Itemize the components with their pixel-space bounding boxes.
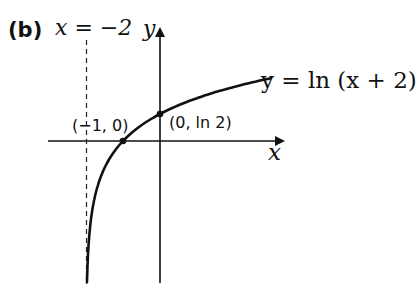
y-intercept-label: (0, ln 2) [169, 113, 232, 132]
x-axis-label: x [268, 139, 281, 165]
part-label: (b) [8, 18, 42, 42]
point-y-intercept [157, 111, 164, 118]
x-intercept-label: (−1, 0) [72, 116, 128, 135]
point-x-intercept [120, 138, 127, 145]
log-curve [87, 78, 271, 282]
asymptote-label: x = −2 [55, 15, 132, 40]
y-axis-label: y [143, 16, 155, 41]
curve-equation-label: y = ln (x + 2) [261, 67, 417, 93]
